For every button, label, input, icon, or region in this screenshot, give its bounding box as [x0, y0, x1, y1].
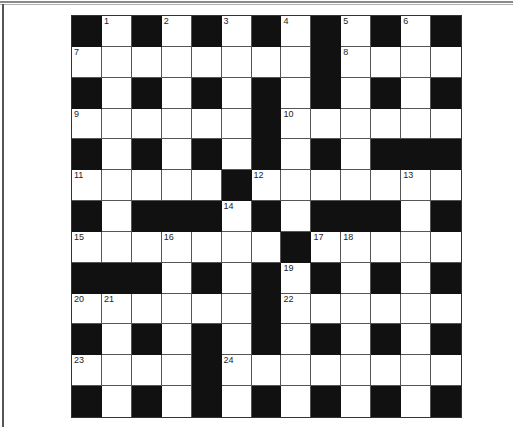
answer-cell[interactable] — [431, 355, 461, 386]
answer-cell[interactable]: 5 — [341, 16, 371, 47]
answer-cell[interactable] — [162, 324, 192, 355]
answer-cell[interactable]: 10 — [281, 109, 311, 140]
answer-cell[interactable]: 1 — [102, 16, 132, 47]
answer-cell[interactable] — [281, 47, 311, 78]
answer-cell[interactable] — [281, 355, 311, 386]
answer-cell[interactable] — [311, 170, 341, 201]
answer-cell[interactable] — [102, 139, 132, 170]
answer-cell[interactable] — [132, 109, 162, 140]
answer-cell[interactable]: 7 — [72, 47, 102, 78]
answer-cell[interactable] — [371, 170, 401, 201]
answer-cell[interactable] — [162, 109, 192, 140]
answer-cell[interactable] — [132, 232, 162, 263]
answer-cell[interactable] — [162, 170, 192, 201]
answer-cell[interactable] — [431, 170, 461, 201]
answer-cell[interactable]: 15 — [72, 232, 102, 263]
answer-cell[interactable] — [401, 109, 431, 140]
answer-cell[interactable] — [192, 47, 222, 78]
answer-cell[interactable]: 21 — [102, 294, 132, 325]
answer-cell[interactable] — [102, 355, 132, 386]
answer-cell[interactable] — [401, 47, 431, 78]
answer-cell[interactable] — [132, 170, 162, 201]
answer-cell[interactable]: 4 — [281, 16, 311, 47]
answer-cell[interactable] — [252, 355, 282, 386]
answer-cell[interactable]: 22 — [281, 294, 311, 325]
answer-cell[interactable] — [431, 232, 461, 263]
answer-cell[interactable] — [222, 294, 252, 325]
answer-cell[interactable] — [222, 139, 252, 170]
answer-cell[interactable] — [192, 109, 222, 140]
answer-cell[interactable] — [102, 232, 132, 263]
answer-cell[interactable] — [132, 47, 162, 78]
answer-cell[interactable] — [102, 170, 132, 201]
answer-cell[interactable]: 16 — [162, 232, 192, 263]
answer-cell[interactable] — [222, 263, 252, 294]
answer-cell[interactable] — [341, 324, 371, 355]
answer-cell[interactable]: 13 — [401, 170, 431, 201]
answer-cell[interactable] — [371, 355, 401, 386]
answer-cell[interactable] — [162, 47, 192, 78]
answer-cell[interactable] — [401, 78, 431, 109]
answer-cell[interactable] — [401, 201, 431, 232]
answer-cell[interactable] — [401, 294, 431, 325]
answer-cell[interactable] — [341, 170, 371, 201]
answer-cell[interactable] — [341, 139, 371, 170]
answer-cell[interactable]: 20 — [72, 294, 102, 325]
answer-cell[interactable] — [102, 386, 132, 417]
answer-cell[interactable] — [222, 386, 252, 417]
answer-cell[interactable] — [281, 170, 311, 201]
answer-cell[interactable] — [162, 78, 192, 109]
answer-cell[interactable] — [162, 294, 192, 325]
answer-cell[interactable] — [401, 232, 431, 263]
answer-cell[interactable] — [401, 355, 431, 386]
answer-cell[interactable]: 23 — [72, 355, 102, 386]
answer-cell[interactable] — [431, 47, 461, 78]
answer-cell[interactable]: 24 — [222, 355, 252, 386]
answer-cell[interactable]: 18 — [341, 232, 371, 263]
answer-cell[interactable] — [431, 294, 461, 325]
answer-cell[interactable] — [311, 109, 341, 140]
answer-cell[interactable] — [102, 201, 132, 232]
answer-cell[interactable] — [371, 47, 401, 78]
answer-cell[interactable] — [311, 355, 341, 386]
answer-cell[interactable] — [132, 294, 162, 325]
answer-cell[interactable] — [102, 109, 132, 140]
answer-cell[interactable] — [401, 324, 431, 355]
answer-cell[interactable] — [162, 386, 192, 417]
answer-cell[interactable] — [431, 109, 461, 140]
answer-cell[interactable] — [222, 109, 252, 140]
answer-cell[interactable] — [401, 263, 431, 294]
answer-cell[interactable] — [401, 386, 431, 417]
answer-cell[interactable] — [341, 386, 371, 417]
answer-cell[interactable] — [371, 232, 401, 263]
answer-cell[interactable] — [102, 78, 132, 109]
answer-cell[interactable]: 19 — [281, 263, 311, 294]
answer-cell[interactable]: 2 — [162, 16, 192, 47]
answer-cell[interactable] — [281, 78, 311, 109]
answer-cell[interactable] — [311, 294, 341, 325]
answer-cell[interactable] — [341, 263, 371, 294]
answer-cell[interactable]: 3 — [222, 16, 252, 47]
answer-cell[interactable]: 11 — [72, 170, 102, 201]
answer-cell[interactable] — [162, 139, 192, 170]
answer-cell[interactable] — [192, 294, 222, 325]
answer-cell[interactable] — [341, 294, 371, 325]
answer-cell[interactable] — [222, 232, 252, 263]
answer-cell[interactable] — [341, 109, 371, 140]
answer-cell[interactable]: 17 — [311, 232, 341, 263]
answer-cell[interactable] — [281, 201, 311, 232]
answer-cell[interactable]: 8 — [341, 47, 371, 78]
answer-cell[interactable] — [371, 294, 401, 325]
answer-cell[interactable]: 9 — [72, 109, 102, 140]
answer-cell[interactable] — [222, 324, 252, 355]
answer-cell[interactable] — [222, 47, 252, 78]
answer-cell[interactable] — [192, 232, 222, 263]
answer-cell[interactable]: 12 — [252, 170, 282, 201]
answer-cell[interactable] — [371, 109, 401, 140]
answer-cell[interactable]: 6 — [401, 16, 431, 47]
answer-cell[interactable] — [252, 47, 282, 78]
answer-cell[interactable] — [102, 324, 132, 355]
answer-cell[interactable] — [162, 263, 192, 294]
answer-cell[interactable] — [162, 355, 192, 386]
answer-cell[interactable] — [132, 355, 162, 386]
